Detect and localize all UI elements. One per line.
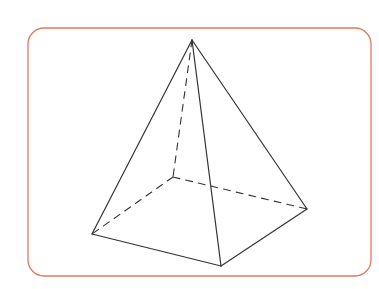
edge-base_front-base_right [221, 209, 307, 266]
hidden-edge-base_back-base_left [92, 177, 173, 234]
diagram-frame [28, 28, 371, 276]
hidden-edges [92, 40, 307, 234]
hidden-edge-base_back-base_right [173, 177, 307, 209]
hidden-edge-apex-base_back [173, 40, 192, 177]
pyramid-diagram [0, 0, 379, 289]
edge-apex-base_front [192, 40, 221, 266]
visible-edges [92, 40, 307, 266]
edge-apex-base_right [192, 40, 307, 209]
edge-base_left-base_front [92, 234, 221, 266]
edge-apex-base_left [92, 40, 192, 234]
